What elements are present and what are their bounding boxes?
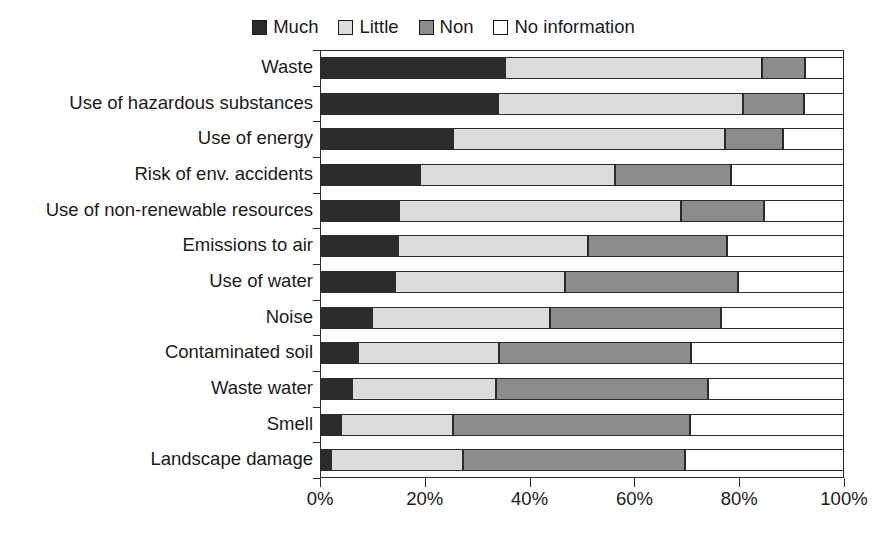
legend-item-little[interactable]: Little — [338, 18, 398, 37]
bar-row[interactable] — [320, 93, 844, 115]
x-axis-tick-label: 0% — [307, 490, 334, 509]
category-label-use-of-non-renewable-resources: Use of non-renewable resources — [0, 201, 313, 220]
bar-row[interactable] — [320, 342, 844, 364]
category-label-contaminated-soil: Contaminated soil — [0, 343, 313, 362]
bar-segment-no-information[interactable] — [685, 449, 844, 471]
category-label-risk-of-env-accidents: Risk of env. accidents — [0, 165, 313, 184]
bar-segment-non[interactable] — [762, 57, 805, 79]
legend-item-much[interactable]: Much — [252, 18, 318, 37]
bar-segment-little[interactable] — [505, 57, 762, 79]
category-axis-labels: WasteUse of hazardous substancesUse of e… — [0, 50, 313, 478]
bar-segment-much[interactable] — [320, 271, 395, 293]
bar-row[interactable] — [320, 271, 844, 293]
x-axis-tick — [425, 478, 426, 487]
bar-segment-no-information[interactable] — [691, 342, 844, 364]
bar-segment-no-information[interactable] — [731, 164, 844, 186]
bar-segment-non[interactable] — [615, 164, 731, 186]
legend-label: No information — [514, 18, 634, 37]
category-label-waste: Waste — [0, 58, 313, 77]
category-label-use-of-hazardous-substances: Use of hazardous substances — [0, 94, 313, 113]
legend-item-no-information[interactable]: No information — [493, 18, 634, 37]
category-label-landscape-damage: Landscape damage — [0, 450, 313, 469]
x-axis-tick-label: 100% — [820, 490, 867, 509]
bar-segment-non[interactable] — [499, 342, 691, 364]
category-label-use-of-water: Use of water — [0, 272, 313, 291]
x-axis-tick-label: 20% — [406, 490, 443, 509]
bar-series-container — [320, 50, 844, 478]
bar-segment-no-information[interactable] — [727, 235, 844, 257]
x-axis-tick-label: 60% — [616, 490, 653, 509]
bar-segment-no-information[interactable] — [721, 307, 844, 329]
bar-segment-non[interactable] — [588, 235, 727, 257]
x-axis-tick-label: 40% — [511, 490, 548, 509]
x-axis-tick — [320, 478, 321, 487]
bar-row[interactable] — [320, 235, 844, 257]
x-axis-tick — [739, 478, 740, 487]
bar-segment-no-information[interactable] — [764, 200, 844, 222]
x-axis-tick — [634, 478, 635, 487]
bar-segment-no-information[interactable] — [783, 128, 844, 150]
bar-segment-much[interactable] — [320, 414, 341, 436]
bar-row[interactable] — [320, 57, 844, 79]
x-axis-tick — [844, 478, 845, 487]
bar-segment-little[interactable] — [398, 235, 588, 257]
bar-segment-non[interactable] — [681, 200, 764, 222]
bar-row[interactable] — [320, 414, 844, 436]
bar-segment-much[interactable] — [320, 128, 453, 150]
bar-segment-little[interactable] — [331, 449, 463, 471]
legend-swatch-icon — [419, 20, 434, 35]
bar-row[interactable] — [320, 164, 844, 186]
bar-segment-little[interactable] — [498, 93, 743, 115]
bar-segment-much[interactable] — [320, 342, 358, 364]
x-axis-tick — [530, 478, 531, 487]
legend-item-non[interactable]: Non — [419, 18, 474, 37]
bar-segment-non[interactable] — [743, 93, 803, 115]
bar-segment-little[interactable] — [372, 307, 550, 329]
bar-segment-non[interactable] — [496, 378, 708, 400]
bar-segment-little[interactable] — [352, 378, 496, 400]
bar-segment-no-information[interactable] — [805, 57, 844, 79]
bar-segment-much[interactable] — [320, 93, 498, 115]
bar-row[interactable] — [320, 378, 844, 400]
legend-swatch-icon — [493, 20, 508, 35]
bar-segment-non[interactable] — [550, 307, 721, 329]
bar-segment-little[interactable] — [395, 271, 565, 293]
bar-segment-little[interactable] — [399, 200, 681, 222]
category-label-emissions-to-air: Emissions to air — [0, 236, 313, 255]
bar-segment-much[interactable] — [320, 200, 399, 222]
bar-segment-much[interactable] — [320, 57, 505, 79]
bar-row[interactable] — [320, 307, 844, 329]
category-label-smell: Smell — [0, 415, 313, 434]
bar-segment-non[interactable] — [565, 271, 738, 293]
bar-segment-no-information[interactable] — [804, 93, 844, 115]
bar-row[interactable] — [320, 449, 844, 471]
bar-segment-little[interactable] — [358, 342, 499, 364]
bar-segment-little[interactable] — [420, 164, 615, 186]
bar-segment-non[interactable] — [453, 414, 690, 436]
bar-segment-little[interactable] — [453, 128, 725, 150]
bar-segment-non[interactable] — [725, 128, 783, 150]
legend-label: Little — [359, 18, 398, 37]
bar-segment-much[interactable] — [320, 449, 331, 471]
legend-label: Non — [440, 18, 474, 37]
chart-legend: MuchLittleNonNo information — [0, 18, 887, 37]
bar-segment-little[interactable] — [341, 414, 453, 436]
bar-segment-much[interactable] — [320, 307, 372, 329]
bar-segment-much[interactable] — [320, 378, 352, 400]
bar-row[interactable] — [320, 128, 844, 150]
legend-swatch-icon — [252, 20, 267, 35]
bar-segment-much[interactable] — [320, 235, 398, 257]
bar-segment-no-information[interactable] — [690, 414, 844, 436]
category-label-waste-water: Waste water — [0, 379, 313, 398]
stacked-bar-chart: MuchLittleNonNo information WasteUse of … — [0, 0, 887, 535]
bar-row[interactable] — [320, 200, 844, 222]
legend-label: Much — [273, 18, 318, 37]
bar-segment-much[interactable] — [320, 164, 420, 186]
category-label-use-of-energy: Use of energy — [0, 129, 313, 148]
x-axis: 0%20%40%60%80%100% — [320, 478, 844, 528]
x-axis-tick-label: 80% — [721, 490, 758, 509]
legend-swatch-icon — [338, 20, 353, 35]
bar-segment-no-information[interactable] — [738, 271, 844, 293]
bar-segment-non[interactable] — [463, 449, 685, 471]
bar-segment-no-information[interactable] — [708, 378, 844, 400]
